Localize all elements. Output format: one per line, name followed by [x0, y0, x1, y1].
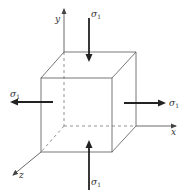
front-face [41, 78, 112, 152]
stress-label-left: σ1 [10, 89, 20, 100]
top-left-depth-edge [41, 52, 64, 78]
stress-label-bottom: σ1 [91, 177, 101, 188]
x-axis-label: x [171, 127, 176, 137]
cube-edges [41, 52, 136, 152]
stress-arrows [12, 18, 164, 190]
stress-cube-diagram: y x z σ1 σ1 σ1 σ1 [0, 0, 186, 196]
z-axis-label: z [18, 170, 24, 180]
bottom-right-depth-edge [112, 126, 136, 152]
hidden-edge-depth [41, 126, 64, 152]
axes [13, 9, 176, 175]
y-axis-label: y [54, 14, 61, 24]
stress-label-top: σ1 [91, 9, 101, 20]
stress-label-right: σ1 [169, 98, 179, 109]
z-axis [13, 152, 41, 175]
top-right-depth-edge [112, 52, 136, 78]
